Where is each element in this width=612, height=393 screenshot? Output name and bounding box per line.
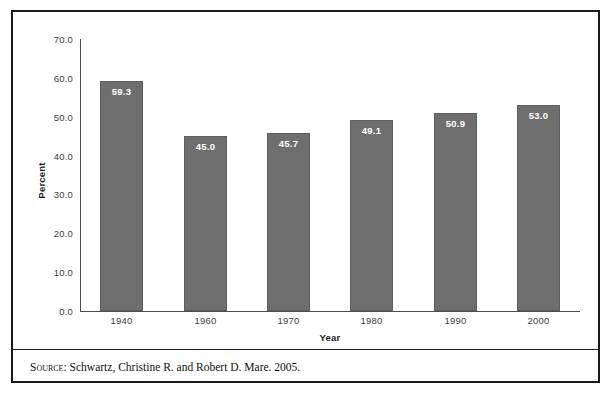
x-axis-line: [80, 311, 580, 312]
bar-value-label: 59.3: [101, 86, 142, 97]
bar: 53.0: [517, 105, 560, 311]
source-label: Source:: [30, 361, 67, 373]
y-axis-tick-label: 60.0: [21, 72, 73, 83]
bar-column: 49.1: [350, 120, 393, 311]
x-axis-tick-label: 1990: [434, 315, 477, 326]
bar: 45.7: [267, 133, 310, 311]
bar-column: 45.7: [267, 133, 310, 311]
x-axis-tick-label: 1960: [184, 315, 227, 326]
bar: 45.0: [184, 136, 227, 311]
y-axis-tick-label: 10.0: [21, 267, 73, 278]
bar: 49.1: [350, 120, 393, 311]
y-axis-tick-label: 0.0: [21, 306, 73, 317]
bar-value-label: 53.0: [518, 110, 559, 121]
bar: 59.3: [100, 81, 143, 311]
bar-value-label: 45.7: [268, 138, 309, 149]
x-axis-tick-label: 1970: [267, 315, 310, 326]
chart-plot-area: Percent 70.060.050.040.030.020.010.00.0 …: [13, 12, 598, 350]
source-divider: [13, 349, 598, 350]
bar-column: 59.3: [100, 81, 143, 311]
x-axis-title: Year: [80, 332, 580, 343]
y-axis-line: [80, 39, 81, 312]
bar-column: 53.0: [517, 105, 560, 311]
x-axis-tick-label: 2000: [517, 315, 560, 326]
y-axis-tick-label: 40.0: [21, 150, 73, 161]
y-axis-tick-label: 20.0: [21, 228, 73, 239]
bar-value-label: 49.1: [351, 125, 392, 136]
bar-value-label: 50.9: [435, 118, 476, 129]
bar-value-label: 45.0: [185, 141, 226, 152]
bar-column: 45.0: [184, 136, 227, 311]
figure-frame: Percent 70.060.050.040.030.020.010.00.0 …: [11, 10, 600, 383]
y-axis-tick-label: 50.0: [21, 111, 73, 122]
source-text: Schwartz, Christine R. and Robert D. Mar…: [67, 361, 300, 373]
y-axis-tick-label: 30.0: [21, 189, 73, 200]
source-note: Source: Schwartz, Christine R. and Rober…: [30, 361, 300, 373]
bar-column: 50.9: [434, 113, 477, 311]
bar: 50.9: [434, 113, 477, 311]
x-axis-tick-label: 1940: [100, 315, 143, 326]
y-axis-tick-label: 70.0: [21, 34, 73, 45]
x-axis-tick-label: 1980: [350, 315, 393, 326]
